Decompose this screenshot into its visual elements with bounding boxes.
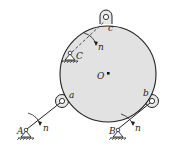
center-point (107, 72, 110, 75)
arrowhead-A (38, 121, 42, 126)
label-a: a (69, 90, 74, 100)
label-b: b (143, 88, 149, 98)
label-c: c (108, 23, 113, 33)
label-n-A: n (43, 123, 49, 133)
label-n-B: n (135, 123, 141, 133)
label-O: O (97, 71, 105, 81)
label-C: C (76, 51, 83, 61)
label-A: A (16, 126, 24, 136)
mechanism-diagram: O C c n A a n B b n (0, 0, 173, 158)
label-B: B (108, 126, 116, 136)
lug-top (100, 10, 112, 24)
label-n-C: n (98, 42, 104, 52)
